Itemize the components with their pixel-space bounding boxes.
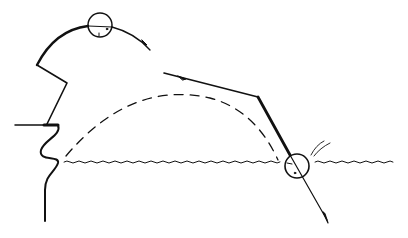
- upper-arc: [37, 26, 88, 65]
- splash-mark-2: [314, 143, 330, 156]
- water-surface-right: [315, 161, 393, 163]
- dashed-trajectory: [66, 95, 278, 160]
- upper-arc-right: [112, 27, 150, 50]
- left-wall-zigzag: [37, 65, 67, 124]
- straight-path-descent: [258, 97, 290, 155]
- top-circle-chord: [88, 26, 112, 27]
- left-wall-lower: [41, 125, 59, 221]
- top-circle: [88, 13, 112, 37]
- upper-arc-arrowhead: [142, 40, 147, 45]
- water-surface-left: [64, 161, 280, 163]
- diagram-svg: [0, 0, 408, 238]
- water-circle: [285, 154, 309, 178]
- water-circle-mark: [287, 163, 292, 164]
- underwater-arrowhead: [323, 212, 328, 223]
- top-circle-dot: [106, 28, 108, 30]
- diagram-canvas: [0, 0, 408, 238]
- water-circle-dot: [294, 172, 296, 174]
